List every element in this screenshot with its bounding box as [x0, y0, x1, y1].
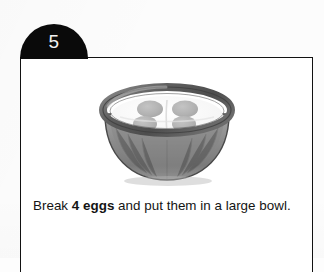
- illustration-area: [21, 78, 312, 190]
- mixing-bowl-with-eggs-icon: [92, 78, 242, 188]
- caption-lead-text: Break: [33, 198, 72, 213]
- step-card: Break 4 eggs and put them in a large bow…: [20, 57, 313, 272]
- step-number-label: 5: [20, 32, 88, 51]
- caption-trail-text: and put them in a large bowl.: [114, 198, 290, 213]
- caption-highlight-text: 4 eggs: [72, 198, 115, 213]
- step-caption: Break 4 eggs and put them in a large bow…: [33, 197, 298, 215]
- step-number-tab: 5: [20, 24, 88, 59]
